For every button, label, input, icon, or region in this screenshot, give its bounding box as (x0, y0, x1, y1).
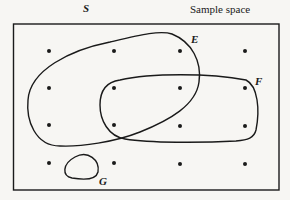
sample-point (47, 123, 51, 127)
sample-space-label: Sample space (190, 4, 250, 15)
sample-point (47, 86, 51, 90)
sample-point (47, 161, 51, 165)
event-f-region (100, 75, 258, 143)
venn-diagram: S Sample space E F G (0, 0, 290, 200)
sample-point (243, 124, 247, 128)
sample-point (112, 161, 116, 165)
sample-point (47, 49, 51, 53)
sample-point (243, 86, 247, 90)
sample-point (112, 86, 116, 90)
sample-point (112, 49, 116, 53)
sample-point (178, 162, 182, 166)
event-e-label: E (191, 34, 198, 45)
sample-point (178, 124, 182, 128)
sample-space-rectangle (14, 24, 280, 190)
sample-point (178, 49, 182, 53)
sample-point (243, 162, 247, 166)
venn-diagram-canvas (0, 0, 290, 200)
event-g-region (65, 155, 98, 179)
sample-space-symbol: S (83, 3, 89, 14)
event-g-label: G (99, 176, 107, 187)
sample-points (47, 49, 247, 166)
sample-point (243, 49, 247, 53)
event-f-label: F (255, 76, 262, 87)
sample-point (112, 123, 116, 127)
sample-point (178, 86, 182, 90)
